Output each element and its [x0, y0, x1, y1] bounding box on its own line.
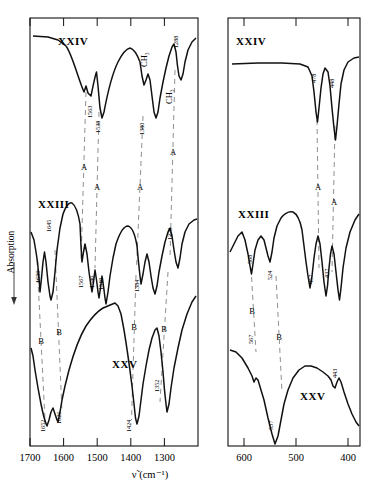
x-tick-1700: 1700: [20, 452, 41, 463]
x-tick-1500: 1500: [87, 452, 108, 463]
peak-label-1546: 1546: [88, 276, 95, 288]
marker-b-r1: B: [249, 306, 255, 316]
trace-label-xxiv-right: XXIV: [236, 35, 266, 47]
trace-label-xxiv-left: XXIV: [58, 35, 88, 47]
x-axis-label: ν̃ (cm⁻¹): [132, 469, 169, 481]
left-marker-A-top: A A A A: [81, 147, 177, 192]
peak-label-1645: 1645: [45, 220, 52, 232]
marker-a-r2: A: [331, 197, 338, 207]
right-bottom-ticks: [244, 438, 348, 446]
peak-label-443: 443: [331, 369, 338, 378]
trace-xxiii-right-peak-labels: 568 524 457 437: [246, 255, 330, 284]
peak-label-448: 448: [328, 79, 335, 88]
ir-spectra-figure: Absorption 1700 1600 1500 1400 130: [0, 0, 382, 486]
trace-xxiv-left-peak-labels: 1563 1538 1380 1288: [86, 36, 179, 135]
trace-xxv-right-peak-labels: 567 537 443: [247, 335, 338, 430]
trace-xxiii-left: [31, 203, 197, 304]
marker-a-4: A: [170, 147, 177, 157]
trace-xxiv-right: [232, 57, 359, 140]
peak-label-1424: 1424: [125, 420, 132, 432]
left-bottom-ticks: [30, 438, 164, 446]
peak-label-1538: 1538: [94, 121, 101, 133]
left-guides-A: [81, 70, 175, 268]
marker-b-3: B: [131, 322, 137, 332]
right-guides: [251, 120, 335, 392]
peak-label-1380: 1380: [138, 123, 145, 135]
marker-a-1: A: [81, 162, 88, 172]
peak-label-1384: 1384: [133, 280, 140, 292]
x-tick-500: 500: [288, 452, 304, 463]
trace-xxv-right: [230, 350, 359, 444]
x-tick-1600: 1600: [53, 452, 74, 463]
peak-label-568: 568: [246, 255, 253, 264]
peak-label-457: 457: [307, 275, 314, 284]
figure-canvas: Absorption 1700 1600 1500 1400 130: [0, 0, 382, 486]
peak-label-1288: 1288: [172, 36, 179, 48]
peak-label-1652: 1652: [39, 420, 46, 432]
trace-label-xxiii-left: XXIII: [38, 198, 69, 210]
guide-a-478-457: [317, 120, 319, 268]
trace-label-xxv-right: XXV: [300, 390, 325, 402]
left-tick-labels: 1700 1600 1500 1400 1300: [20, 452, 175, 463]
left-marker-B-mid: B B B B: [38, 322, 167, 346]
x-tick-400: 400: [340, 452, 356, 463]
x-tick-600: 600: [236, 452, 252, 463]
right-panel: 600 500 400 XXIV 478 448 A A XXIII 568 5…: [228, 18, 360, 463]
y-axis-label: Absorption: [6, 230, 16, 273]
peak-label-1352: 1352: [153, 380, 160, 392]
down-arrow-icon: [11, 297, 17, 305]
marker-b-4: B: [161, 324, 167, 334]
marker-b-1: B: [38, 336, 44, 346]
ch3-label-2: CH₃: [164, 89, 174, 104]
x-tick-1300: 1300: [154, 452, 175, 463]
peak-label-567: 567: [247, 335, 254, 344]
peak-label-537: 537: [267, 421, 274, 430]
right-top-ticks: [244, 18, 348, 26]
left-panel: 1700 1600 1500 1400 1300 XXIV 1563 1538: [20, 18, 199, 463]
marker-a-r1: A: [315, 182, 322, 192]
peak-label-437: 437: [323, 269, 330, 278]
right-tick-labels: 600 500 400: [236, 452, 356, 463]
peak-label-1686: 1686: [34, 271, 41, 283]
trace-label-xxiii-right: XXIII: [238, 208, 269, 220]
peak-label-478: 478: [310, 74, 317, 83]
peak-label-1567: 1567: [77, 276, 84, 288]
peak-label-1563: 1563: [86, 106, 93, 118]
peak-label-1519: 1519: [97, 278, 104, 290]
marker-a-2: A: [94, 182, 101, 192]
ch3-label-1: CH₃: [139, 52, 149, 67]
marker-a-3: A: [137, 182, 144, 192]
marker-b-r2: B: [276, 332, 282, 342]
left-top-ticks: [30, 18, 164, 26]
peak-label-1279: 1279: [166, 228, 173, 240]
peak-label-1626: 1626: [55, 412, 62, 424]
y-axis-group: Absorption: [6, 230, 17, 305]
x-tick-1400: 1400: [120, 452, 141, 463]
trace-label-xxv-left: XXV: [112, 358, 137, 370]
marker-b-2: B: [56, 327, 62, 337]
peak-label-524: 524: [266, 271, 273, 280]
